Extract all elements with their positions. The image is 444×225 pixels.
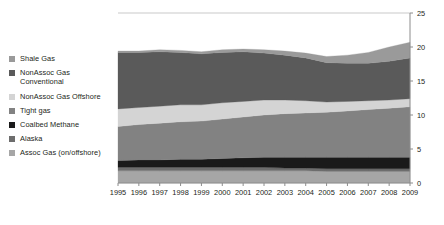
chart-plot-area: 0510152025199519961997199819992000200120…	[0, 0, 444, 225]
area-band	[118, 171, 410, 183]
x-axis-tick-label: 2002	[256, 188, 272, 197]
stacked-area-chart-svg: 0510152025199519961997199819992000200120…	[0, 0, 444, 225]
x-axis-tick-label: 2006	[339, 188, 355, 197]
y-axis-tick-label: 25	[417, 9, 425, 18]
x-axis-tick-label: 2009	[402, 188, 418, 197]
x-axis-tick-label: 1996	[131, 188, 147, 197]
x-axis-tick-label: 1998	[172, 188, 188, 197]
x-axis-tick-label: 1997	[151, 188, 167, 197]
x-axis-tick-label: 2000	[214, 188, 230, 197]
y-axis-tick-label: 10	[417, 111, 425, 120]
x-axis-tick-label: 2005	[318, 188, 334, 197]
x-axis-tick-label: 2001	[235, 188, 251, 197]
chart-figure: Shale GasNonAssoc Gas ConventionalNonAss…	[0, 0, 444, 225]
y-axis-tick-label: 15	[417, 77, 425, 86]
x-axis-tick-label: 1995	[110, 188, 126, 197]
y-axis-tick-label: 0	[417, 179, 421, 188]
x-axis-tick-label: 2003	[277, 188, 293, 197]
x-axis-tick-label: 1999	[193, 188, 209, 197]
y-axis-tick-label: 5	[417, 145, 421, 154]
x-axis-tick-label: 2008	[381, 188, 397, 197]
y-axis-tick-label: 20	[417, 43, 425, 52]
x-axis-tick-label: 2004	[297, 188, 313, 197]
x-axis-tick-label: 2007	[360, 188, 376, 197]
